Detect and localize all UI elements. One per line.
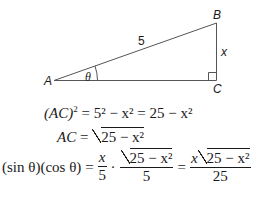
fraction-result: x25 − x² 25 bbox=[190, 148, 251, 185]
right-angle-marker bbox=[209, 73, 217, 81]
frac3-denominator: 25 bbox=[190, 168, 251, 185]
frac2-denominator: 5 bbox=[120, 168, 174, 185]
fraction-x-over-5: x 5 bbox=[98, 149, 107, 184]
frac2-numerator: 25 − x² bbox=[120, 148, 174, 168]
right-triangle-figure bbox=[0, 0, 278, 100]
eq1-lhs: (AC) bbox=[44, 105, 73, 121]
angle-theta-label: θ bbox=[85, 71, 91, 83]
eq2-lhs: AC bbox=[57, 129, 76, 145]
frac3-numerator: x25 − x² bbox=[190, 148, 251, 168]
frac1-numerator: x bbox=[98, 149, 107, 167]
equation-line-2: AC = 25 − x² bbox=[57, 127, 144, 145]
vertex-label-a: A bbox=[44, 75, 52, 87]
frac1-denominator: 5 bbox=[98, 167, 107, 184]
side-x-label: x bbox=[221, 46, 227, 58]
fraction-sqrt-over-5: 25 − x² 5 bbox=[120, 148, 174, 185]
vertex-label-b: B bbox=[213, 9, 221, 21]
equation-line-3: (sin θ)(cos θ) = x 5 · 25 − x² 5 = x25 −… bbox=[2, 148, 251, 185]
eq2-sqrt: 25 − x² bbox=[92, 127, 144, 145]
frac3-x: x bbox=[191, 150, 198, 166]
side-ab-hypotenuse bbox=[54, 23, 217, 81]
eq3-equals-2: = bbox=[177, 159, 185, 175]
eq3-equals-1: = bbox=[85, 159, 93, 175]
vertex-label-c: C bbox=[213, 83, 222, 95]
frac2-radicand: 25 − x² bbox=[130, 148, 173, 167]
eq1-rhs: = 5² − x² = 25 − x² bbox=[81, 105, 192, 121]
eq2-equals: = bbox=[80, 129, 88, 145]
angle-theta-arc bbox=[95, 66, 98, 81]
eq2-radicand: 25 − x² bbox=[101, 127, 144, 145]
multiplication-dot: · bbox=[111, 159, 116, 175]
hypotenuse-label: 5 bbox=[138, 35, 145, 47]
eq1-lhs-exponent: 2 bbox=[73, 104, 78, 114]
eq3-lhs: (sin θ)(cos θ) bbox=[2, 159, 81, 175]
equation-line-1: (AC)2 = 5² − x² = 25 − x² bbox=[44, 105, 193, 121]
frac3-radicand: 25 − x² bbox=[207, 148, 250, 167]
